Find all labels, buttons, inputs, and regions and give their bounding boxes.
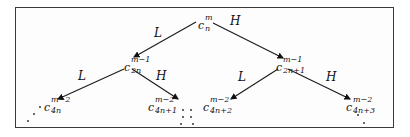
node-base: c: [148, 101, 154, 114]
node-sub: 4n+2: [210, 107, 232, 115]
node-base: c: [198, 19, 204, 32]
node-lh: c m−2 4n+1: [148, 102, 154, 113]
edge-label-h-hl: L: [238, 70, 246, 84]
node-sup: m−2: [155, 96, 174, 104]
node-sup: m−1: [131, 56, 150, 64]
ellipsis-icon: [24, 103, 44, 125]
node-sup: m: [205, 14, 213, 22]
node-sub: 2n: [131, 67, 141, 75]
node-hh: c m−2 4n+3: [346, 102, 352, 113]
continuation-dots-middle: [178, 106, 204, 130]
node-base: c: [276, 61, 282, 74]
edge-label-root-l: L: [154, 26, 162, 40]
node-sub: n: [205, 25, 210, 33]
node-sup: m−2: [51, 96, 70, 104]
node-ll: c m−2 4n: [44, 102, 50, 113]
ellipsis-icon: [354, 113, 374, 129]
node-sub: 4n+1: [155, 107, 177, 115]
ellipsis-icon: [178, 106, 204, 128]
edge-label-h-hh: H: [326, 70, 336, 84]
continuation-dots-left: [24, 103, 44, 127]
node-h: c m−1 2n+1: [276, 62, 282, 73]
edge-root-h: [213, 23, 283, 58]
node-sub: 4n: [51, 107, 61, 115]
node-sub: 2n+1: [283, 67, 305, 75]
edge-label-l-ll: L: [78, 69, 86, 83]
node-base: c: [346, 101, 352, 114]
node-root: c m n: [198, 20, 204, 31]
node-sup: m−1: [283, 56, 302, 64]
continuation-dots-right: [354, 113, 374, 131]
node-base: c: [124, 61, 130, 74]
edge-root-l: [134, 22, 196, 57]
node-sup: m−2: [210, 96, 229, 104]
node-l: c m−1 2n: [124, 62, 130, 73]
node-base: c: [44, 101, 50, 114]
edge-label-root-h: H: [230, 14, 240, 28]
node-sup: m−2: [353, 96, 372, 104]
edge-label-l-lh: H: [156, 69, 166, 83]
